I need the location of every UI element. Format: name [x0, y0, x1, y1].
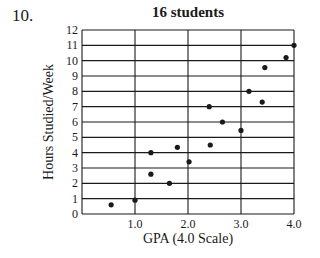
- y-tick-label: 10: [66, 54, 78, 68]
- y-tick-label: 8: [72, 84, 78, 98]
- grid-lines: [82, 30, 294, 214]
- y-tick-label: 12: [66, 23, 78, 37]
- x-tick-label: 2.0: [181, 217, 196, 231]
- data-point: [109, 202, 114, 207]
- data-point: [148, 172, 153, 177]
- x-tick-label: 3.0: [234, 217, 249, 231]
- data-points: [109, 43, 297, 208]
- data-point: [167, 181, 172, 186]
- data-point: [207, 104, 212, 109]
- data-point: [283, 55, 288, 60]
- x-tick-label: 1.0: [128, 217, 143, 231]
- x-tick-label: 4.0: [287, 217, 302, 231]
- data-point: [291, 43, 296, 48]
- y-axis-label: Hours Studied/Week: [41, 64, 56, 180]
- data-point: [148, 150, 153, 155]
- y-tick-label: 6: [72, 115, 78, 129]
- data-point: [262, 65, 267, 70]
- data-point: [208, 142, 213, 147]
- data-point: [220, 119, 225, 124]
- data-point: [132, 198, 137, 203]
- data-point: [175, 145, 180, 150]
- y-tick-label: 4: [72, 146, 78, 160]
- x-axis-label: GPA (4.0 Scale): [143, 231, 233, 247]
- data-point: [260, 99, 265, 104]
- y-tick-label: 2: [72, 176, 78, 190]
- data-point: [246, 89, 251, 94]
- y-tick-label: 3: [72, 161, 78, 175]
- y-tick-label: 5: [72, 130, 78, 144]
- scatter-plot: 0123456789101112 1.02.03.04.0 GPA (4.0 S…: [0, 0, 320, 258]
- x-axis-ticks: 1.02.03.04.0: [128, 217, 302, 231]
- y-tick-label: 9: [72, 69, 78, 83]
- data-point: [238, 128, 243, 133]
- y-tick-label: 1: [72, 192, 78, 206]
- y-axis-ticks: 0123456789101112: [66, 23, 78, 221]
- data-point: [186, 159, 191, 164]
- y-tick-label: 7: [72, 100, 78, 114]
- y-tick-label: 11: [66, 38, 78, 52]
- y-tick-label: 0: [72, 207, 78, 221]
